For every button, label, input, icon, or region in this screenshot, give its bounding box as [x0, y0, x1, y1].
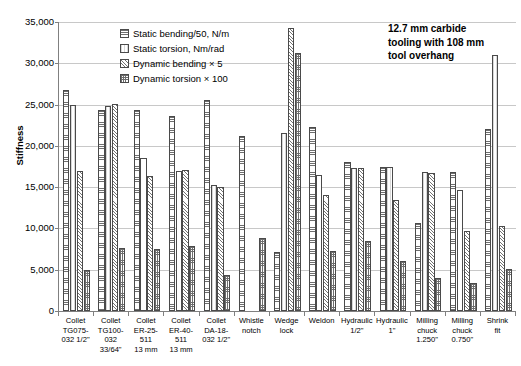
x-axis-category-label-line: lock	[269, 326, 304, 336]
y-tick-label: 30,000	[0, 59, 54, 69]
x-axis-separator-tick	[410, 311, 411, 316]
bar-group	[446, 22, 481, 311]
legend-label: Static bending/50, N/m	[133, 28, 229, 39]
x-axis-category-label-line: 13 mm	[128, 345, 163, 355]
x-axis-category-label: ColletTG075-032 1/2"	[58, 316, 93, 345]
bar	[380, 167, 386, 312]
legend-swatch-icon	[120, 74, 129, 83]
bar	[309, 127, 315, 311]
bar	[134, 110, 140, 311]
x-axis-category-label-line: Collet	[199, 316, 234, 326]
x-axis-category-label-line: Milling	[410, 316, 445, 326]
bar	[147, 176, 153, 311]
bar-group	[270, 22, 305, 311]
annotation-line-3: tool overhang	[388, 49, 508, 63]
bar	[330, 251, 336, 311]
y-tick-label: 0	[0, 306, 54, 316]
y-tick-label: 10,000	[0, 224, 54, 234]
x-axis-category-label: Whistlenotch	[234, 316, 269, 335]
bar-group	[411, 22, 446, 311]
bar-group	[375, 22, 410, 311]
bar-group	[59, 22, 94, 311]
bar	[316, 175, 322, 311]
bar-group	[340, 22, 375, 311]
bar	[365, 241, 371, 311]
x-axis-category-label-line: TG100-	[93, 326, 128, 336]
bar	[274, 252, 280, 311]
legend-item: Dynamic bending × 5	[120, 56, 270, 70]
x-axis-separator-tick	[58, 311, 59, 316]
bar	[358, 168, 364, 311]
x-axis-category-label-line: Collet	[128, 316, 163, 326]
x-axis-category-label-line: 33/64"	[93, 345, 128, 355]
x-axis-category-label-line: 032	[93, 335, 128, 345]
bar	[98, 110, 104, 311]
x-axis-category-label-line: Hydraulic	[339, 316, 374, 326]
bar	[105, 106, 111, 311]
x-axis-category-label-line: 1/2"	[339, 326, 374, 336]
x-axis-separator-tick	[234, 311, 235, 316]
x-axis-separator-tick	[93, 311, 94, 316]
bar	[415, 223, 421, 311]
x-axis-category-label-line: Whistle	[234, 316, 269, 326]
annotation-line-2: tooling with 108 mm	[388, 36, 508, 50]
bar	[224, 275, 230, 311]
x-axis-category-label: Shrinkfit	[480, 316, 515, 335]
x-axis-category-label-line: 032 1/2"	[58, 335, 93, 345]
legend-swatch-icon	[120, 29, 129, 38]
bar-group	[305, 22, 340, 311]
legend-swatch-icon	[120, 44, 129, 53]
bar-group	[481, 22, 516, 311]
bar	[295, 53, 301, 311]
x-axis-category-label: ColletTG100-03233/64"	[93, 316, 128, 354]
bar	[351, 168, 357, 311]
bar	[499, 226, 505, 311]
bar	[169, 116, 175, 311]
bar	[470, 283, 476, 311]
x-axis-separator-tick	[339, 311, 340, 316]
x-axis-category-label-line: DA-18-	[199, 326, 234, 336]
legend: Static bending/50, N/mStatic torsion, Nm…	[120, 26, 270, 86]
x-axis-category-label-line: Milling	[445, 316, 480, 326]
bar	[239, 136, 245, 311]
bar	[84, 270, 90, 311]
x-axis-category-label-line: 1"	[374, 326, 409, 336]
x-axis-category-label-line: ER-40-	[163, 326, 198, 336]
bar	[140, 158, 146, 311]
x-axis-category-label-line: ER-25-	[128, 326, 163, 336]
bar	[259, 238, 265, 311]
x-axis-category-label: Weldon	[304, 316, 339, 326]
x-axis-category-label: ColletDA-18-032 1/2"	[199, 316, 234, 345]
bar	[281, 133, 287, 311]
bar	[204, 100, 210, 311]
x-axis-separator-tick	[480, 311, 481, 316]
x-axis-category-label-line: 511	[128, 335, 163, 345]
bar-chart: Stiffness 05,00010,00015,00020,00025,000…	[0, 0, 521, 366]
bar	[119, 248, 125, 311]
x-axis-category-label: Hydraulic1/2"	[339, 316, 374, 335]
chart-annotation: 12.7 mm carbide tooling with 108 mm tool…	[388, 22, 508, 63]
x-axis-category-label: ColletER-40-51113 mm	[163, 316, 198, 354]
bar	[428, 173, 434, 311]
bar	[217, 187, 223, 311]
x-axis-category-label-line: 1.250"	[410, 335, 445, 345]
x-axis-category-label: Wedgelock	[269, 316, 304, 335]
x-axis-separator-tick	[445, 311, 446, 316]
legend-item: Dynamic torsion × 100	[120, 71, 270, 85]
legend-item: Static bending/50, N/m	[120, 26, 270, 40]
y-tick-label: 20,000	[0, 141, 54, 151]
x-axis-category-label-line: fit	[480, 326, 515, 336]
bar	[176, 171, 182, 311]
x-axis-separator-tick	[128, 311, 129, 316]
bar	[506, 269, 512, 311]
x-axis-category-label: Hydraulic1"	[374, 316, 409, 335]
bar	[182, 170, 188, 311]
bar	[435, 278, 441, 311]
legend-label: Dynamic bending × 5	[133, 58, 223, 69]
x-axis-category-label-line: Collet	[58, 316, 93, 326]
bar	[386, 167, 392, 312]
x-axis-category-label: ColletER-25-51113 mm	[128, 316, 163, 354]
x-axis-category-label-line: chuck	[445, 326, 480, 336]
bar	[63, 90, 69, 311]
bar	[189, 246, 195, 311]
